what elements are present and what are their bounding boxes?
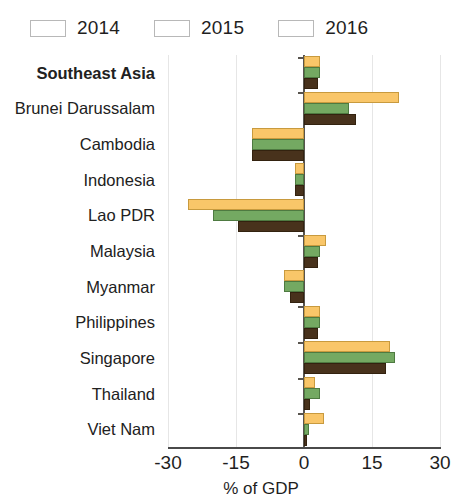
x-axis-title: % of GDP bbox=[0, 479, 450, 499]
legend-swatch-2015 bbox=[154, 20, 190, 37]
bar-2014-southeast-asia bbox=[304, 56, 320, 67]
bar-2016-brunei-darussalam bbox=[304, 114, 356, 125]
bar-2016-malaysia bbox=[304, 257, 318, 268]
legend-item-2015: 2015 bbox=[154, 17, 244, 39]
y-axis-tick bbox=[298, 306, 303, 308]
bar-2014-viet-nam bbox=[304, 413, 324, 424]
y-axis-tick bbox=[298, 413, 303, 415]
bar-2015-indonesia bbox=[295, 174, 304, 185]
category-label: Brunei Darussalam bbox=[15, 100, 155, 117]
legend-swatch-2014 bbox=[30, 20, 66, 37]
bar-2015-brunei-darussalam bbox=[304, 103, 349, 114]
x-tick-label: 15 bbox=[361, 452, 382, 474]
bar-2016-cambodia bbox=[252, 150, 304, 161]
bar-2014-singapore bbox=[304, 341, 390, 352]
gridline bbox=[168, 55, 169, 447]
bar-2014-brunei-darussalam bbox=[304, 92, 399, 103]
bar-2015-malaysia bbox=[304, 246, 320, 257]
category-label: Southeast Asia bbox=[36, 65, 155, 82]
bar-2016-thailand bbox=[304, 399, 310, 410]
category-axis-labels: Southeast AsiaBrunei DarussalamCambodiaI… bbox=[0, 55, 163, 447]
bar-2015-myanmar bbox=[284, 281, 304, 292]
bar-2015-viet-nam bbox=[304, 424, 309, 435]
plot-area bbox=[168, 55, 440, 447]
bar-2015-singapore bbox=[304, 352, 395, 363]
legend-label-2016: 2016 bbox=[325, 17, 368, 39]
category-label: Viet Nam bbox=[87, 421, 155, 438]
gridline bbox=[236, 55, 237, 447]
legend-item-2014: 2014 bbox=[30, 17, 120, 39]
category-label: Indonesia bbox=[83, 172, 155, 189]
bar-2015-philippines bbox=[304, 317, 320, 328]
bar-2016-indonesia bbox=[295, 185, 304, 196]
bar-2014-myanmar bbox=[284, 270, 304, 281]
x-tick-label: -15 bbox=[222, 452, 249, 474]
gridline bbox=[440, 55, 441, 447]
bar-2014-indonesia bbox=[295, 163, 304, 174]
x-axis-tick-labels: -30-1501530 bbox=[0, 452, 450, 480]
bar-2014-philippines bbox=[304, 306, 320, 317]
y-axis-tick bbox=[298, 378, 303, 380]
category-label: Thailand bbox=[92, 386, 155, 403]
y-axis-tick bbox=[298, 57, 303, 59]
chart-legend: 2014 2015 2016 bbox=[0, 8, 450, 48]
x-axis-title-text: % of GDP bbox=[223, 479, 299, 499]
x-tick-label: -30 bbox=[154, 452, 181, 474]
gridline bbox=[372, 55, 373, 447]
y-axis-tick bbox=[298, 92, 303, 94]
category-label: Cambodia bbox=[80, 136, 155, 153]
category-label: Malaysia bbox=[90, 243, 155, 260]
legend-label-2014: 2014 bbox=[77, 17, 120, 39]
bar-2014-thailand bbox=[304, 377, 315, 388]
legend-item-2016: 2016 bbox=[278, 17, 368, 39]
legend-label-2015: 2015 bbox=[201, 17, 244, 39]
bar-2016-philippines bbox=[304, 328, 318, 339]
category-label: Myanmar bbox=[86, 279, 155, 296]
bar-2014-malaysia bbox=[304, 235, 326, 246]
bar-2016-lao-pdr bbox=[238, 221, 304, 232]
bar-2015-lao-pdr bbox=[213, 210, 304, 221]
bar-2015-thailand bbox=[304, 388, 320, 399]
bar-2014-cambodia bbox=[252, 128, 304, 139]
y-axis-tick bbox=[298, 235, 303, 237]
x-axis-line bbox=[168, 447, 441, 449]
bar-2016-myanmar bbox=[290, 292, 304, 303]
bar-2016-singapore bbox=[304, 363, 386, 374]
y-axis-tick bbox=[298, 342, 303, 344]
bar-2016-southeast-asia bbox=[304, 78, 318, 89]
bar-2015-cambodia bbox=[252, 139, 304, 150]
x-tick-label: 30 bbox=[429, 452, 450, 474]
category-label: Philippines bbox=[75, 314, 155, 331]
category-label: Singapore bbox=[80, 350, 155, 367]
category-label: Lao PDR bbox=[88, 207, 155, 224]
bar-2014-lao-pdr bbox=[188, 199, 304, 210]
bar-2016-viet-nam bbox=[304, 435, 307, 446]
plot-wrap: Southeast AsiaBrunei DarussalamCambodiaI… bbox=[0, 55, 450, 447]
x-tick-label: 0 bbox=[299, 452, 310, 474]
legend-swatch-2016 bbox=[278, 20, 314, 37]
bar-2015-southeast-asia bbox=[304, 67, 320, 78]
